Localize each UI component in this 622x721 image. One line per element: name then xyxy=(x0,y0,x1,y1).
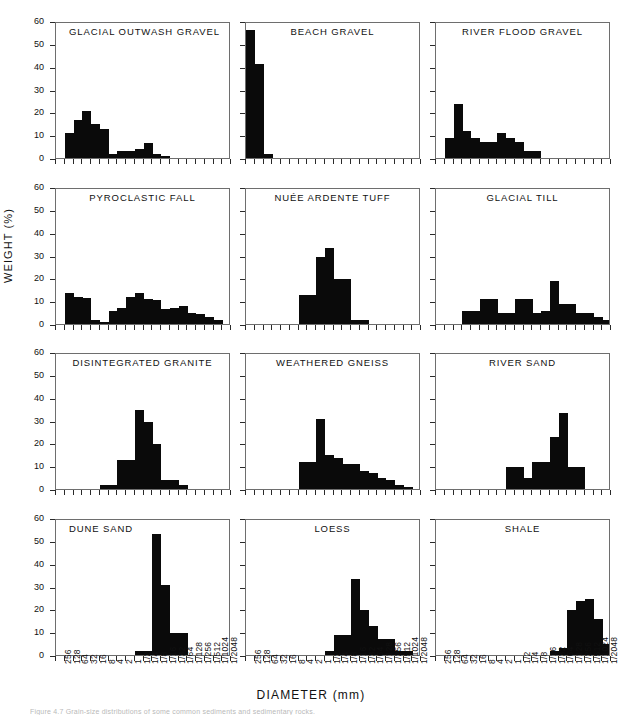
y-tick xyxy=(430,45,435,46)
x-tick xyxy=(514,490,515,495)
x-tick xyxy=(461,490,462,495)
y-tick xyxy=(430,444,435,445)
y-tick xyxy=(240,519,245,520)
y-tick xyxy=(430,211,435,212)
panel-loess: LOESS25612864321684211/21/41/81/161/321/… xyxy=(245,519,420,656)
y-tick xyxy=(240,113,245,114)
bar xyxy=(187,313,196,324)
bar-series xyxy=(436,23,609,158)
y-tick-label: 50 xyxy=(22,206,44,215)
x-tick xyxy=(385,325,386,330)
x-tick xyxy=(108,490,109,495)
x-tick xyxy=(263,159,264,164)
x-tick xyxy=(435,325,436,330)
x-tick xyxy=(549,490,550,495)
x-tick xyxy=(186,159,187,164)
x-tick xyxy=(213,159,214,164)
x-tick xyxy=(531,490,532,495)
y-tick xyxy=(430,234,435,235)
y-tick xyxy=(50,519,55,520)
x-tick xyxy=(204,325,205,330)
y-tick xyxy=(50,467,55,468)
x-tick xyxy=(195,490,196,495)
x-tick xyxy=(99,325,100,330)
bar xyxy=(497,133,506,158)
y-tick xyxy=(50,91,55,92)
y-tick xyxy=(240,136,245,137)
x-tick xyxy=(479,490,480,495)
x-tick xyxy=(64,159,65,164)
x-tick xyxy=(160,490,161,495)
x-tick xyxy=(435,159,436,164)
x-tick xyxy=(324,159,325,164)
x-tick xyxy=(403,490,404,495)
panel-title: GLACIAL OUTWASH GRAVEL xyxy=(55,26,230,37)
bar xyxy=(480,142,489,158)
y-tick xyxy=(240,588,245,589)
y-tick-label: 10 xyxy=(22,297,44,306)
x-tick xyxy=(496,159,497,164)
bar xyxy=(471,311,480,325)
x-tick xyxy=(230,159,231,164)
x-tick xyxy=(315,490,316,495)
bar xyxy=(532,462,541,489)
y-tick-label: 20 xyxy=(22,274,44,283)
bar xyxy=(135,410,144,489)
x-tick xyxy=(143,490,144,495)
bar xyxy=(82,111,91,158)
bar xyxy=(100,485,109,490)
x-tick xyxy=(55,325,56,330)
x-tick xyxy=(186,490,187,495)
x-tick xyxy=(108,159,109,164)
x-tick xyxy=(271,159,272,164)
x-tick xyxy=(470,325,471,330)
x-tick-label: 1/2048 xyxy=(419,637,429,664)
x-tick xyxy=(230,490,231,495)
y-tick xyxy=(50,211,55,212)
panel-river-flood-gravel: RIVER FLOOD GRAVEL xyxy=(435,22,610,159)
x-tick xyxy=(289,490,290,495)
bar xyxy=(506,138,515,158)
x-tick xyxy=(514,325,515,330)
bar xyxy=(567,304,576,324)
bar xyxy=(395,485,404,490)
bar xyxy=(161,480,170,489)
x-tick xyxy=(411,159,412,164)
panel-title: PYROCLASTIC FALL xyxy=(55,192,230,203)
x-tick xyxy=(566,490,567,495)
x-tick xyxy=(531,325,532,330)
bar xyxy=(342,279,351,324)
x-tick xyxy=(315,159,316,164)
x-tick xyxy=(461,325,462,330)
bar-series xyxy=(56,354,229,489)
x-tick xyxy=(496,490,497,495)
panel-disintegrated-granite: DISINTEGRATED GRANITE0102030405060 xyxy=(55,353,230,490)
y-tick-label: 50 xyxy=(22,371,44,380)
y-tick xyxy=(50,113,55,114)
y-tick xyxy=(240,565,245,566)
x-tick xyxy=(523,490,524,495)
panel-river-sand: RIVER SAND xyxy=(435,353,610,490)
x-tick xyxy=(125,325,126,330)
panel-dune-sand: DUNE SAND010203040506025612864321684211/… xyxy=(55,519,230,656)
bar xyxy=(497,313,506,324)
x-tick xyxy=(376,490,377,495)
x-tick xyxy=(143,325,144,330)
bar xyxy=(462,311,471,325)
x-tick xyxy=(584,490,585,495)
y-tick xyxy=(240,399,245,400)
y-tick xyxy=(240,22,245,23)
x-tick xyxy=(134,490,135,495)
y-tick-label: 40 xyxy=(22,229,44,238)
x-tick xyxy=(151,325,152,330)
x-tick xyxy=(151,490,152,495)
panel-title: RIVER FLOOD GRAVEL xyxy=(435,26,610,37)
x-tick xyxy=(558,159,559,164)
y-tick xyxy=(50,234,55,235)
x-tick xyxy=(204,490,205,495)
panel-title: SHALE xyxy=(435,523,610,534)
bar xyxy=(100,322,109,324)
y-tick-label: 30 xyxy=(22,252,44,261)
y-tick xyxy=(50,257,55,258)
bar-series xyxy=(56,189,229,324)
